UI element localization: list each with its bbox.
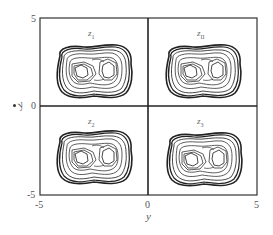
x-tick-mid: 0 bbox=[145, 200, 150, 210]
panel-label-top-right: zII bbox=[197, 29, 205, 42]
x-tick-left: -5 bbox=[35, 200, 43, 210]
bullet-marker bbox=[13, 104, 16, 107]
contour-panel-top-left bbox=[57, 45, 132, 98]
x-tick-right: 5 bbox=[254, 200, 259, 210]
contour-panel-bottom-right bbox=[167, 133, 242, 186]
x-axis-label: y bbox=[146, 211, 151, 222]
contour-panel-top-right bbox=[166, 45, 241, 98]
y-tick-top: 5 bbox=[31, 14, 36, 24]
contour-panel-bottom-left bbox=[57, 131, 132, 184]
y-tick-mid: 0 bbox=[31, 101, 36, 111]
panel-label-bottom-right: z3 bbox=[197, 117, 204, 130]
panel-label-top-left: z1 bbox=[88, 29, 95, 42]
panel-label-bottom-left: z2 bbox=[88, 117, 95, 130]
